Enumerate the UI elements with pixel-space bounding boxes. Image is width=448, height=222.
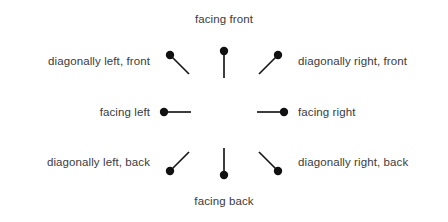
label-facing-front: facing front — [0, 12, 448, 26]
pin-icon-diagonally-right-front — [247, 38, 295, 86]
pin-icon-facing-front — [200, 38, 248, 86]
label-diagonally-right-front: diagonally right, front — [298, 54, 448, 68]
label-facing-back: facing back — [0, 194, 448, 208]
pin-icon-facing-right — [247, 88, 295, 136]
pin-icon-diagonally-right-back — [247, 138, 295, 186]
pin-icon-diagonally-left-front — [153, 38, 201, 86]
label-diagonally-left-front: diagonally left, front — [0, 54, 150, 68]
label-facing-left: facing left — [0, 105, 150, 119]
orientation-legend-diagram: facing front diagonally left, front diag… — [0, 0, 448, 222]
label-diagonally-right-back: diagonally right, back — [298, 155, 448, 169]
pin-icon-facing-back — [200, 138, 248, 186]
label-diagonally-left-back: diagonally left, back — [0, 155, 150, 169]
label-facing-right: facing right — [298, 105, 448, 119]
pin-icon-facing-left — [153, 88, 201, 136]
pin-icon-diagonally-left-back — [153, 138, 201, 186]
